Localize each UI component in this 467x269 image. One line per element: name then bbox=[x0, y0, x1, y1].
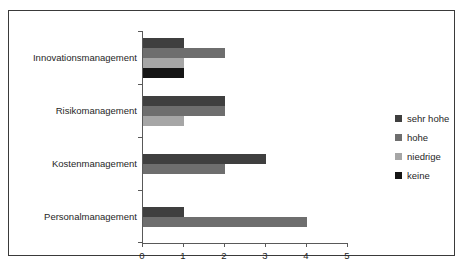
legend-item: hohe bbox=[395, 128, 461, 147]
legend-label: keine bbox=[407, 170, 430, 182]
legend-item: niedrige bbox=[395, 147, 461, 166]
bar bbox=[143, 207, 184, 217]
category-label: Innovationsmanagement bbox=[9, 52, 137, 64]
bar bbox=[143, 217, 307, 227]
value-tick bbox=[265, 243, 266, 247]
legend-label: sehr hohe bbox=[407, 113, 449, 125]
value-tick bbox=[224, 243, 225, 247]
category-label: Kostenmanagement bbox=[9, 158, 137, 170]
chart-border-frame: InnovationsmanagementRisikomanagementKos… bbox=[8, 10, 455, 256]
bar bbox=[143, 116, 184, 126]
category-axis-labels: InnovationsmanagementRisikomanagementKos… bbox=[9, 31, 137, 243]
value-tick bbox=[183, 243, 184, 247]
value-tick-label: 1 bbox=[168, 250, 198, 262]
legend-swatch-icon bbox=[395, 134, 402, 141]
category-tick bbox=[138, 190, 142, 191]
value-tick-label: 3 bbox=[250, 250, 280, 262]
legend-swatch-icon bbox=[395, 153, 402, 160]
bar bbox=[143, 154, 266, 164]
legend-swatch-icon bbox=[395, 172, 402, 179]
bar bbox=[143, 106, 225, 116]
bar bbox=[143, 48, 225, 58]
value-axis-line bbox=[142, 243, 348, 244]
bar bbox=[143, 68, 184, 78]
value-tick bbox=[306, 243, 307, 247]
chart-figure: InnovationsmanagementRisikomanagementKos… bbox=[0, 0, 467, 269]
legend-item: sehr hohe bbox=[395, 109, 461, 128]
bar bbox=[143, 58, 184, 68]
value-tick-label: 4 bbox=[291, 250, 321, 262]
legend-label: hohe bbox=[407, 132, 428, 144]
legend-label: niedrige bbox=[407, 151, 441, 163]
legend-swatch-icon bbox=[395, 115, 402, 122]
value-tick-label: 5 bbox=[332, 250, 362, 262]
legend-item: keine bbox=[395, 166, 461, 185]
category-label: Risikomanagement bbox=[9, 105, 137, 117]
value-tick-label: 0 bbox=[127, 250, 157, 262]
value-tick-label: 2 bbox=[209, 250, 239, 262]
plot-area: 012345 bbox=[142, 31, 347, 243]
bar bbox=[143, 96, 225, 106]
category-tick bbox=[138, 137, 142, 138]
chart-legend: sehr hohehoheniedrigekeine bbox=[395, 109, 461, 185]
value-tick bbox=[142, 243, 143, 247]
bar bbox=[143, 164, 225, 174]
category-tick bbox=[138, 84, 142, 85]
category-label: Personalmanagement bbox=[9, 211, 137, 223]
category-tick bbox=[138, 31, 142, 32]
bar bbox=[143, 38, 184, 48]
value-tick bbox=[347, 243, 348, 247]
